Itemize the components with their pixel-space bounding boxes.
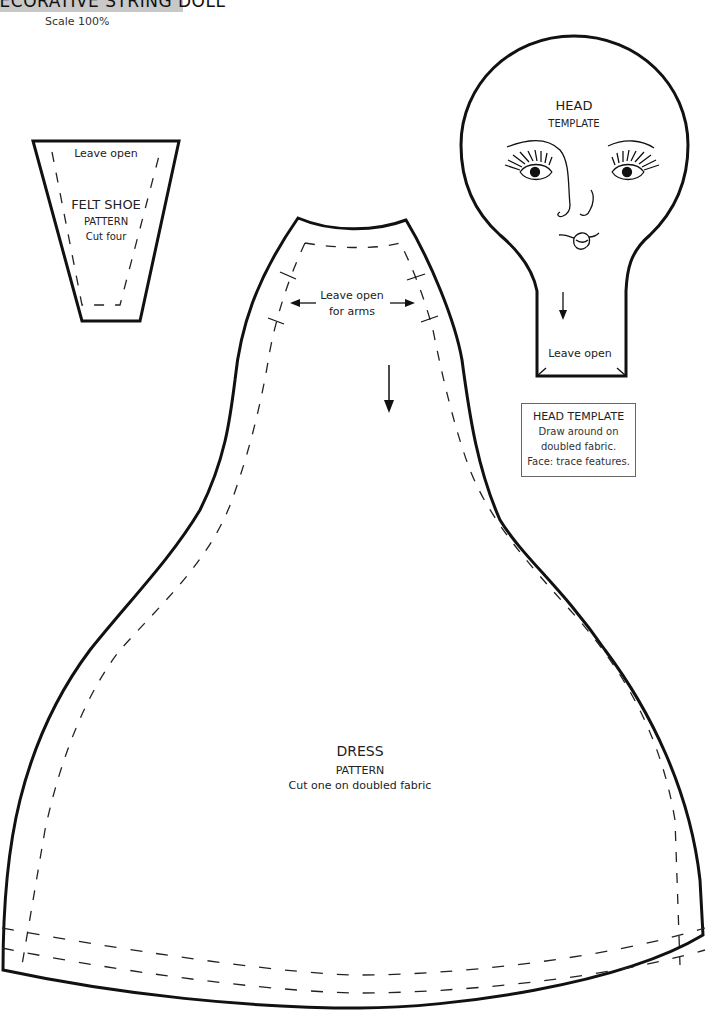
arm-opening-note-line2: for arms	[310, 305, 394, 318]
info-box-line-2: doubled fabric.	[522, 441, 635, 453]
info-box-title: HEAD TEMPLATE	[522, 410, 635, 423]
shoe-instruction: Cut four	[56, 231, 156, 242]
info-box-line-3: Face: trace features.	[522, 456, 635, 468]
dress-instruction: Cut one on doubled fabric	[270, 779, 450, 792]
shoe-title: FELT SHOE	[56, 197, 156, 212]
head-opening-note: Leave open	[540, 347, 620, 360]
head-template-shape	[461, 36, 688, 376]
shoe-opening-note: Leave open	[62, 147, 150, 160]
dress-subtitle: PATTERN	[300, 764, 420, 777]
arm-opening-note-line1: Leave open	[310, 289, 394, 302]
head-title: HEAD	[534, 98, 614, 113]
head-info-box: HEAD TEMPLATE Draw around on doubled fab…	[521, 403, 636, 477]
face-features	[505, 141, 659, 250]
dress-pattern	[2, 218, 705, 1008]
shoe-subtitle: PATTERN	[56, 216, 156, 227]
info-box-line-1: Draw around on	[522, 426, 635, 438]
dress-title: DRESS	[300, 743, 420, 759]
head-subtitle: TEMPLATE	[534, 118, 614, 129]
